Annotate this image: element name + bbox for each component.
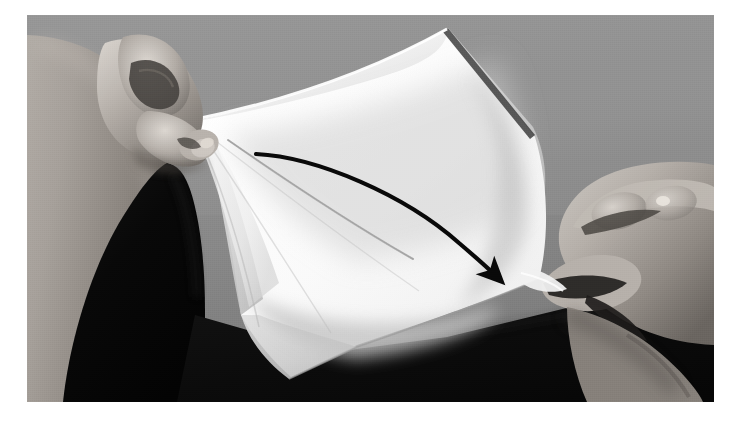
figure-caption <box>0 402 741 427</box>
photograph-canvas <box>27 15 714 402</box>
figure-stage <box>0 0 741 427</box>
instruction-photograph <box>27 15 714 402</box>
